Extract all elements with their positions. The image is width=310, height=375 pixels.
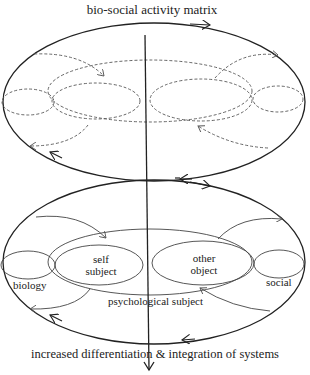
object-label: object — [191, 264, 218, 276]
footer-label: increased differentiation & integration … — [31, 347, 279, 361]
upper-dashed-arrow-4-icon — [198, 126, 268, 148]
lower-curve-arrow-2-icon — [218, 218, 282, 239]
upper-arrow-left-icon — [50, 152, 62, 158]
title-label: bio-social activity matrix — [87, 2, 218, 17]
social-label: social — [266, 276, 292, 288]
psychological-subject-ellipse — [48, 229, 252, 295]
lower-matrix: self subject other object biology social… — [1, 178, 305, 344]
lower-arrow-left-icon — [50, 315, 62, 321]
lower-arrow-right-icon — [190, 182, 210, 186]
upper-dashed-arrow-2-icon — [215, 54, 278, 78]
psychological-subject-label: psychological subject — [108, 295, 203, 307]
upper-outer-ellipse — [3, 23, 305, 181]
upper-dashed-arrow-1-icon — [34, 54, 104, 76]
lower-curve-arrow-1-icon — [36, 216, 106, 238]
lower-curve-arrow-3-icon — [30, 289, 90, 309]
self-label: self — [93, 253, 109, 265]
subject-label: subject — [85, 265, 116, 277]
upper-matrix — [2, 23, 305, 181]
vertical-axis-line — [145, 35, 149, 370]
biology-ellipse — [1, 251, 55, 279]
upper-other-dashed-ellipse — [150, 79, 252, 121]
biology-label: biology — [13, 279, 47, 291]
upper-middle-dashed-ellipse — [48, 60, 252, 122]
lower-curve-arrow-4-icon — [200, 288, 270, 311]
upper-right-dashed-ellipse — [253, 86, 303, 112]
lower-arrow-bottom-icon — [182, 339, 195, 340]
upper-left-dashed-ellipse — [2, 89, 54, 115]
diagram-canvas: bio-social activity matrix — [0, 0, 310, 375]
upper-arrow-right-icon — [190, 24, 210, 25]
upper-self-dashed-ellipse — [52, 83, 140, 119]
upper-dashed-arrow-3-icon — [30, 125, 88, 146]
other-label: other — [193, 252, 216, 264]
social-ellipse — [254, 250, 304, 278]
